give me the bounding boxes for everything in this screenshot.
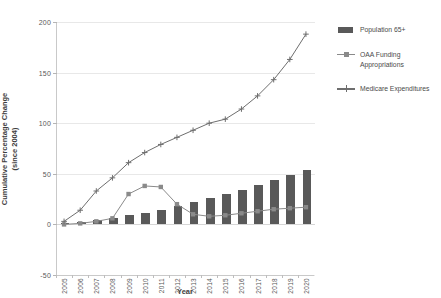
data-point-marker xyxy=(303,31,309,37)
legend-label-population: Population 65+ xyxy=(360,24,406,35)
legend-item-oaa: OAA Funding Appropriations xyxy=(337,49,441,70)
square-marker-line-icon xyxy=(337,49,355,61)
legend-item-population: Population 65+ xyxy=(337,24,441,36)
data-point-marker xyxy=(110,216,114,220)
x-tick-label: 2009 xyxy=(125,278,132,294)
series-line xyxy=(64,186,306,224)
legend-item-medicare: Medicare Expenditures xyxy=(337,83,441,95)
x-tick-label: 2010 xyxy=(141,278,148,294)
y-tick-label: 0 xyxy=(47,221,51,228)
chart-container: Cumulative Percentage Change (since 2004… xyxy=(0,0,441,298)
x-tick xyxy=(233,275,234,278)
x-tick xyxy=(121,275,122,278)
y-tick-label: 200 xyxy=(39,19,51,26)
x-tick xyxy=(72,275,73,278)
x-tick xyxy=(266,275,267,278)
data-point-marker xyxy=(223,116,229,122)
legend-label-oaa: OAA Funding Appropriations xyxy=(360,49,441,70)
x-tick-label: 2015 xyxy=(222,278,229,294)
y-axis-title-line2: (since 2004) xyxy=(10,74,20,224)
x-tick-label: 2014 xyxy=(206,278,213,294)
series-lines xyxy=(56,22,314,275)
x-tick-label: 2020 xyxy=(302,278,309,294)
data-point-marker xyxy=(206,120,212,126)
data-point-marker xyxy=(271,207,275,211)
data-point-marker xyxy=(175,202,179,206)
x-tick xyxy=(88,275,89,278)
data-point-marker xyxy=(304,205,308,209)
x-tick xyxy=(201,275,202,278)
x-tick-label: 2013 xyxy=(190,278,197,294)
x-tick xyxy=(250,275,251,278)
bar-swatch-icon xyxy=(337,24,355,36)
data-point-marker xyxy=(174,135,180,141)
y-axis-title: Cumulative Percentage Change (since 2004… xyxy=(0,74,20,224)
x-tick xyxy=(282,275,283,278)
y-tick-label: -50 xyxy=(40,272,51,279)
data-point-marker xyxy=(207,214,211,218)
data-point-marker xyxy=(191,212,195,216)
x-tick-label: 2007 xyxy=(93,278,100,294)
data-point-marker xyxy=(158,142,164,148)
data-point-marker xyxy=(78,221,82,225)
data-point-marker xyxy=(142,150,148,156)
y-tick-label: 50 xyxy=(43,170,51,177)
x-tick xyxy=(298,275,299,278)
x-tick-label: 2017 xyxy=(254,278,261,294)
x-tick xyxy=(56,275,57,278)
data-point-marker xyxy=(190,127,196,133)
data-point-marker xyxy=(223,213,227,217)
legend-label-medicare: Medicare Expenditures xyxy=(360,83,430,94)
y-axis-title-line1: Cumulative Percentage Change xyxy=(0,74,10,224)
x-tick-label: 2005 xyxy=(61,278,68,294)
x-tick xyxy=(137,275,138,278)
x-tick-label: 2018 xyxy=(270,278,277,294)
data-point-marker xyxy=(239,211,243,215)
y-tick-label: 150 xyxy=(39,69,51,76)
x-tick xyxy=(217,275,218,278)
cross-marker-line-icon xyxy=(337,83,355,95)
data-point-marker xyxy=(288,206,292,210)
x-tick xyxy=(153,275,154,278)
data-point-marker xyxy=(94,219,98,223)
data-point-marker xyxy=(255,209,259,213)
data-point-marker xyxy=(126,192,130,196)
data-point-marker xyxy=(142,184,146,188)
x-tick-label: 2011 xyxy=(157,278,164,293)
x-tick-label: 2019 xyxy=(286,278,293,294)
x-tick-label: 2006 xyxy=(77,278,84,294)
chart-legend: Population 65+ OAA Funding Appropriation… xyxy=(337,24,441,108)
series-line xyxy=(64,34,306,221)
y-tick-label: 100 xyxy=(39,120,51,127)
x-tick-label: 2016 xyxy=(238,278,245,294)
x-tick xyxy=(169,275,170,278)
x-tick-label: 2008 xyxy=(109,278,116,294)
x-tick xyxy=(104,275,105,278)
x-tick xyxy=(185,275,186,278)
x-tick-label: 2012 xyxy=(173,278,180,294)
data-point-marker xyxy=(159,185,163,189)
